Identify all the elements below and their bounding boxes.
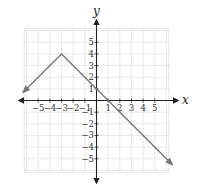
x-tick-label: 4 xyxy=(140,103,145,113)
y-axis-label: y xyxy=(92,4,100,18)
y-tick-label: 5 xyxy=(89,37,94,47)
x-axis-label: x xyxy=(182,93,189,107)
y-tick-label: −5 xyxy=(81,154,94,164)
x-tick-label: −5 xyxy=(32,103,45,113)
y-tick-label: −4 xyxy=(81,142,94,152)
y-tick-label: −2 xyxy=(81,119,94,129)
y-tick-label: 3 xyxy=(89,61,94,71)
y-tick-label: −3 xyxy=(81,130,94,140)
coordinate-plane-graph: −5−4−3−2−11234554321−1−2−3−4−5 x y xyxy=(0,0,198,189)
x-tick-label: −3 xyxy=(55,103,68,113)
y-tick-label: 2 xyxy=(89,72,94,82)
x-tick-label: 3 xyxy=(129,103,134,113)
x-tick-label: −2 xyxy=(67,103,80,113)
y-tick-label: 4 xyxy=(89,49,94,59)
y-tick-label: −1 xyxy=(81,107,94,117)
x-tick-label: −4 xyxy=(44,103,57,113)
x-tick-label: 1 xyxy=(105,103,110,113)
x-tick-label: 5 xyxy=(152,103,157,113)
